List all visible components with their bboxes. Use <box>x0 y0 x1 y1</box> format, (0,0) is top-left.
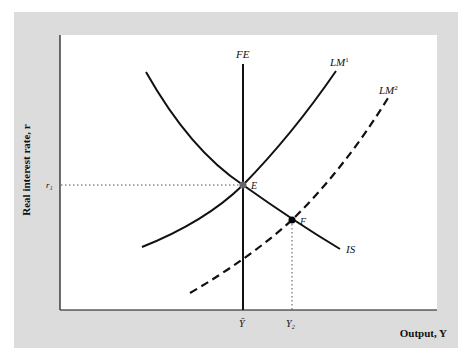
lm2-label: LM2 <box>378 84 398 96</box>
lm2-curve <box>190 98 388 293</box>
point-e-label: E <box>250 180 257 191</box>
point-f-label: F <box>299 216 307 227</box>
point-e-marker <box>240 182 247 189</box>
y-tick-r1: r₁ <box>46 180 53 190</box>
lm1-label: LM1 <box>329 56 349 68</box>
is-label: IS <box>345 243 356 255</box>
lm1-curve <box>142 71 336 247</box>
x-axis-label: Output, Y <box>400 327 447 339</box>
y-axis-label: Real interest rate, r <box>20 124 32 215</box>
is-lm-fe-diagram: FE LM1 LM2 IS E F r₁ Ȳ Y₂ <box>0 0 469 353</box>
x-tick-ybar: Ȳ <box>239 318 246 329</box>
x-tick-y2: Y₂ <box>286 318 296 329</box>
point-f-marker <box>289 217 296 224</box>
fe-label: FE <box>235 48 250 60</box>
